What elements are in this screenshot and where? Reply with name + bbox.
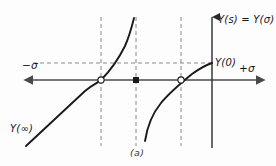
curve-left-branch: [26, 18, 134, 146]
figure-caption: (a): [130, 147, 144, 158]
negative-sigma-axis-label: −σ: [22, 60, 38, 71]
curve-right-branch: [145, 63, 212, 141]
zero-marker-2: [178, 77, 184, 83]
zero-marker-1: [98, 77, 104, 83]
y-axis-label: Y(s) = Y(σ): [218, 15, 274, 25]
pole-marker: [133, 77, 139, 83]
value-at-zero-label: Y(0): [215, 58, 236, 68]
asymptote-group: [33, 17, 212, 146]
figure-root-pole-zero-plot: Y(s) = Y(σ) −σ +σ Y(0) Y(∞) (a): [0, 0, 276, 166]
value-at-infinity-label: Y(∞): [10, 124, 33, 134]
positive-sigma-axis-label: +σ: [239, 63, 255, 74]
